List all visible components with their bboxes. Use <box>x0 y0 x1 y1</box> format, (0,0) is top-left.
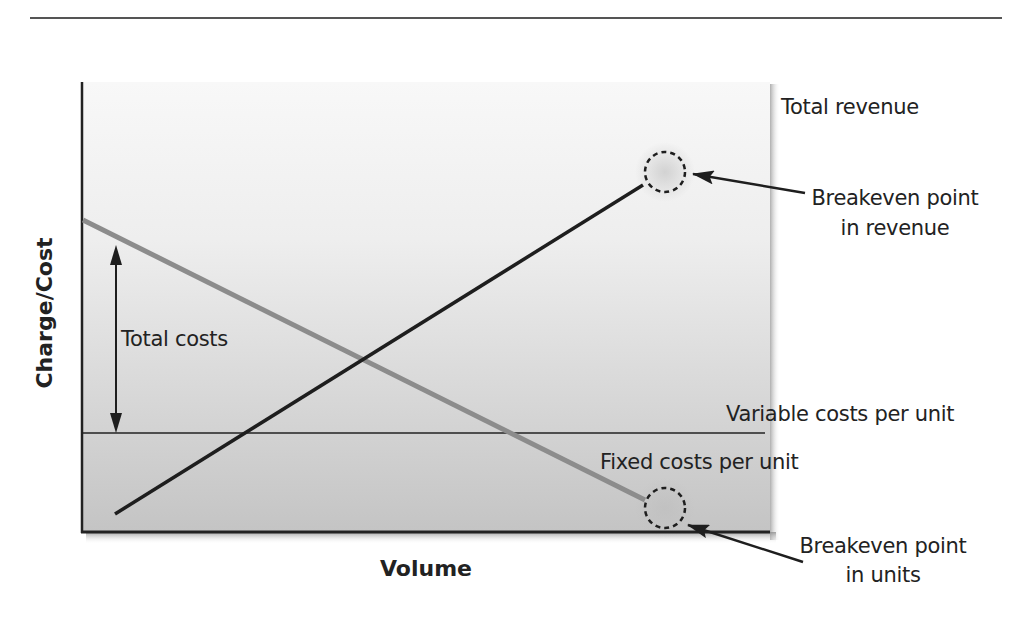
fixed-costs-label: Fixed costs per unit <box>600 450 799 474</box>
variable-costs-label: Variable costs per unit <box>726 402 954 426</box>
total-costs-label: Total costs <box>120 327 228 351</box>
y-axis-label: Charge/Cost <box>32 237 57 389</box>
breakeven-revenue-label-line1: Breakeven point <box>811 186 978 210</box>
breakeven-units-label-line2: in units <box>845 563 920 587</box>
breakeven-revenue-label-line2: in revenue <box>841 216 950 240</box>
breakeven-units-label-line1: Breakeven point <box>799 534 966 558</box>
plot-area <box>82 82 780 544</box>
total-revenue-label: Total revenue <box>780 95 919 119</box>
breakeven-diagram: Charge/Cost Volume Total revenue Breakev… <box>0 0 1032 620</box>
x-axis-label: Volume <box>380 556 472 581</box>
